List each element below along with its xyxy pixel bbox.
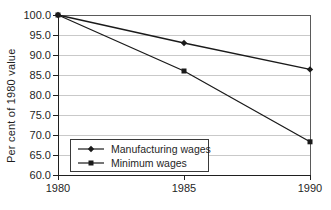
legend-diamond-marker-icon: [78, 144, 105, 154]
legend-label: Minimum wages: [111, 157, 187, 169]
legend-label: Manufacturing wages: [111, 143, 211, 155]
plot-area: [0, 0, 331, 210]
legend-item-minimum-wages: Minimum wages: [78, 156, 208, 170]
legend: Manufacturing wagesMinimum wages: [70, 139, 209, 172]
marker-square: [56, 13, 61, 18]
marker-square: [308, 139, 313, 144]
marker-diamond: [181, 40, 187, 46]
marker-square: [182, 69, 187, 74]
marker-diamond: [307, 66, 313, 72]
legend-item-manufacturing-wages: Manufacturing wages: [78, 142, 208, 156]
y-axis-title: Per cent of 1980 value: [5, 49, 17, 163]
series-line-minimum-wages: [58, 15, 310, 142]
legend-square-marker-icon: [78, 158, 105, 168]
wages-line-chart: Per cent of 1980 value 100.095.090.085.0…: [0, 0, 331, 210]
